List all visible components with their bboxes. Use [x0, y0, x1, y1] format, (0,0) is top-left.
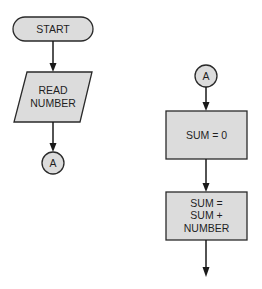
arrow-sum0-to-sumadd: [203, 159, 210, 192]
arrow-connector-to-sum0: [203, 87, 210, 111]
read-label-line1: READ: [38, 84, 68, 96]
connector-a-left: A: [42, 152, 64, 174]
connector-a-left-label: A: [49, 157, 56, 169]
process-sum-zero: SUM = 0: [166, 111, 247, 159]
arrow-down-exit: [203, 240, 210, 277]
read-label-line2: NUMBER: [30, 97, 76, 109]
connector-a-right-label: A: [202, 70, 209, 82]
sum-add-line2: SUM +: [190, 209, 222, 221]
flowchart: START READ NUMBER A A SUM = 0 SUM = SUM …: [0, 0, 262, 289]
start-terminal: START: [13, 17, 93, 41]
sum-zero-label: SUM = 0: [186, 129, 227, 141]
process-sum-add: SUM = SUM + NUMBER: [166, 192, 247, 240]
read-number-input: READ NUMBER: [14, 72, 92, 122]
arrow-start-to-read: [50, 41, 57, 72]
start-label: START: [36, 23, 70, 35]
sum-add-line1: SUM =: [190, 197, 222, 209]
connector-a-right: A: [195, 65, 217, 87]
arrow-read-to-connector: [50, 122, 57, 152]
sum-add-line3: NUMBER: [184, 222, 230, 234]
